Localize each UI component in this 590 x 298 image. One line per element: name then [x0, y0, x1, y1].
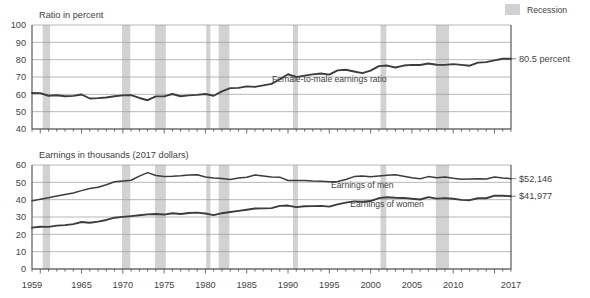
series-annotation: Earnings of men: [331, 180, 394, 190]
earnings-panel: 0102030405060Earnings of menEarnings of …: [16, 160, 552, 274]
bottom-panel-axis-title: Earnings in thousands (2017 dollars): [39, 150, 189, 160]
y-tick-label: 70: [16, 72, 26, 82]
x-tick-label: 1975: [154, 280, 174, 290]
x-tick-label: 1995: [319, 280, 339, 290]
x-tick-label: 1959: [22, 280, 42, 290]
legend: Recession: [505, 4, 567, 15]
earnings-ratio-figure: 405060708090100Female-to-male earnings r…: [0, 0, 590, 298]
x-tick-label: 1990: [278, 280, 298, 290]
x-tick-label: 1965: [71, 280, 91, 290]
figure-svg: 405060708090100Female-to-male earnings r…: [0, 0, 590, 298]
x-tick-label: 2010: [443, 280, 463, 290]
legend-recession-label: Recession: [527, 5, 567, 15]
end-value-label: $52,146: [519, 174, 552, 184]
top-panel-axis-title: Ratio in percent: [39, 10, 104, 20]
y-tick-label: 80: [16, 55, 26, 65]
end-value-label: 80.5 percent: [519, 54, 571, 64]
y-tick-label: 40: [16, 124, 26, 134]
ratio-panel: 405060708090100Female-to-male earnings r…: [11, 20, 571, 134]
y-tick-label: 60: [16, 90, 26, 100]
x-tick-label: 1985: [236, 280, 256, 290]
x-tick-label: 1970: [113, 280, 133, 290]
legend-recession-swatch: [505, 4, 520, 15]
y-tick-label: 30: [16, 212, 26, 222]
x-tick-label: 1980: [195, 280, 215, 290]
y-tick-label: 100: [11, 20, 26, 30]
x-tick-label: 2005: [402, 280, 422, 290]
y-tick-label: 50: [16, 107, 26, 117]
x-tick-label: 2000: [360, 280, 380, 290]
y-tick-label: 60: [16, 160, 26, 170]
y-tick-label: 90: [16, 38, 26, 48]
y-tick-label: 10: [16, 247, 26, 257]
series-annotation: Earnings of women: [350, 199, 424, 209]
y-tick-label: 20: [16, 230, 26, 240]
end-value-label: $41,977: [519, 191, 552, 201]
series-annotation: Female-to-male earnings ratio: [272, 74, 387, 84]
y-tick-label: 0: [21, 264, 26, 274]
x-tick-label: 2017: [501, 280, 521, 290]
y-tick-label: 40: [16, 195, 26, 205]
y-tick-label: 50: [16, 178, 26, 188]
